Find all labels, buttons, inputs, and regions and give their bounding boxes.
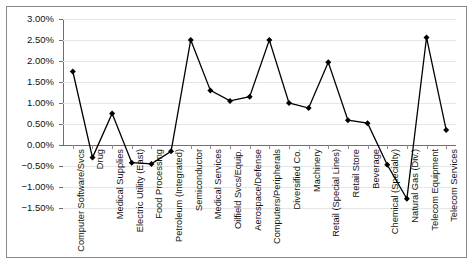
data-point-marker [384,162,390,168]
data-point-marker [443,127,449,133]
data-point-marker [286,100,292,106]
data-point-marker [345,117,351,123]
data-point-marker [227,98,233,104]
data-point-marker [424,34,430,40]
data-point-marker [109,111,115,117]
data-point-marker [89,155,95,161]
data-point-marker [266,37,272,43]
data-point-marker [188,37,194,43]
data-point-marker [325,59,331,65]
chart-container: 3.00%2.50%2.00%1.50%1.00%0.50%0.00%−0.50… [0,0,473,264]
data-point-marker [404,196,410,202]
data-point-marker [129,160,135,166]
data-point-marker [207,87,213,93]
data-series-line [0,0,473,264]
chart-axes: 3.00%2.50%2.00%1.50%1.00%0.50%0.00%−0.50… [0,0,473,264]
series-polyline [73,37,446,198]
data-point-marker [70,69,76,75]
data-point-marker [306,105,312,111]
data-point-marker [365,120,371,126]
data-point-marker [247,94,253,100]
